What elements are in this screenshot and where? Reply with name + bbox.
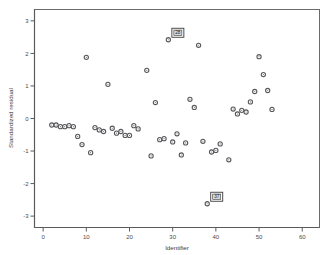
case-label-text: 37 [214, 194, 220, 199]
data-point-core [107, 84, 108, 85]
y-tick-label-3: 0 [25, 116, 29, 122]
y-tick-label-0: -3 [23, 213, 29, 219]
x-tick-label-3: 30 [169, 234, 176, 240]
data-point-core [211, 151, 212, 152]
data-point-core [254, 91, 255, 92]
data-point-core [233, 109, 234, 110]
data-point-core [202, 141, 203, 142]
plot-frame [35, 10, 320, 228]
data-point-core [271, 109, 272, 110]
data-point-core [129, 135, 130, 136]
x-tick-label-0: 0 [41, 234, 45, 240]
data-point-core [125, 135, 126, 136]
data-point-core [155, 102, 156, 103]
data-point-core [120, 131, 121, 132]
x-axis-title: Identifier [165, 244, 189, 251]
data-point-core [64, 126, 65, 127]
data-point-core [151, 155, 152, 156]
data-point-core [168, 39, 169, 40]
y-tick-label-6: 3 [25, 18, 29, 24]
data-point-core [60, 126, 61, 127]
x-axis: 0102030405060 Identifier [35, 228, 320, 252]
data-point-core [241, 110, 242, 111]
x-tick-label-1: 10 [83, 234, 90, 240]
y-tick-label-2: -1 [23, 148, 29, 154]
case-label-28[interactable]: 28 [172, 28, 184, 37]
scatter-plot-figure: -3-2-10123 Standardized residual 0102030… [0, 0, 331, 255]
case-label-37[interactable]: 37 [211, 192, 223, 201]
data-point-core [267, 90, 268, 91]
data-point-core [258, 56, 259, 57]
y-tick-label-1: -2 [23, 181, 29, 187]
data-point-core [159, 139, 160, 140]
data-point-core [220, 143, 221, 144]
data-point-core [181, 154, 182, 155]
data-point-core [86, 57, 87, 58]
data-point-core [116, 133, 117, 134]
y-axis: -3-2-10123 Standardized residual [7, 10, 35, 228]
y-axis-title: Standardized residual [7, 88, 14, 148]
data-point-core [94, 127, 95, 128]
case-label-text: 28 [175, 30, 181, 35]
data-point-core [189, 99, 190, 100]
data-point-core [163, 138, 164, 139]
y-tick-label-4: 1 [25, 83, 29, 89]
data-point-core [246, 111, 247, 112]
x-tick-label-2: 20 [126, 234, 133, 240]
data-point-core [250, 101, 251, 102]
data-point-core [90, 152, 91, 153]
data-point-core [56, 124, 57, 125]
data-point-core [51, 124, 52, 125]
data-point-core [198, 45, 199, 46]
data-point-core [77, 136, 78, 137]
data-point-core [185, 142, 186, 143]
x-tick-label-5: 50 [256, 234, 263, 240]
data-point-core [133, 125, 134, 126]
data-point-core [237, 113, 238, 114]
y-axis-ticks: -3-2-10123 [23, 18, 34, 219]
data-point-core [215, 150, 216, 151]
data-point-core [81, 144, 82, 145]
data-point-core [172, 141, 173, 142]
data-point-core [73, 126, 74, 127]
x-axis-ticks: 0102030405060 [41, 228, 306, 240]
data-point-core [138, 128, 139, 129]
data-point-core [68, 125, 69, 126]
data-point-core [112, 128, 113, 129]
x-tick-label-6: 60 [299, 234, 306, 240]
x-tick-label-4: 40 [213, 234, 220, 240]
data-point-core [194, 107, 195, 108]
data-point-core [103, 131, 104, 132]
data-point-core [99, 129, 100, 130]
y-tick-label-5: 2 [25, 51, 29, 57]
data-point-core [263, 74, 264, 75]
data-point-core [146, 70, 147, 71]
data-point-core [228, 159, 229, 160]
data-point-core [207, 203, 208, 204]
plot-canvas: -3-2-10123 Standardized residual 0102030… [0, 0, 331, 255]
data-point-core [176, 133, 177, 134]
